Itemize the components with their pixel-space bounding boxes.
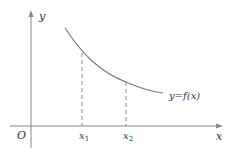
y-axis-arrow-icon (29, 10, 34, 17)
curve-f (65, 28, 163, 93)
x-axis-arrow-icon (216, 124, 223, 129)
x-axis-label: x (216, 130, 223, 143)
function-diagram: y x O y=f(x) x1 x2 (0, 0, 232, 159)
origin-label: O (17, 129, 26, 142)
marker-x1: x1 (79, 130, 89, 143)
marker-x2: x2 (123, 130, 133, 143)
y-axis-label: y (38, 10, 46, 23)
curve-label: y=f(x) (168, 90, 200, 101)
